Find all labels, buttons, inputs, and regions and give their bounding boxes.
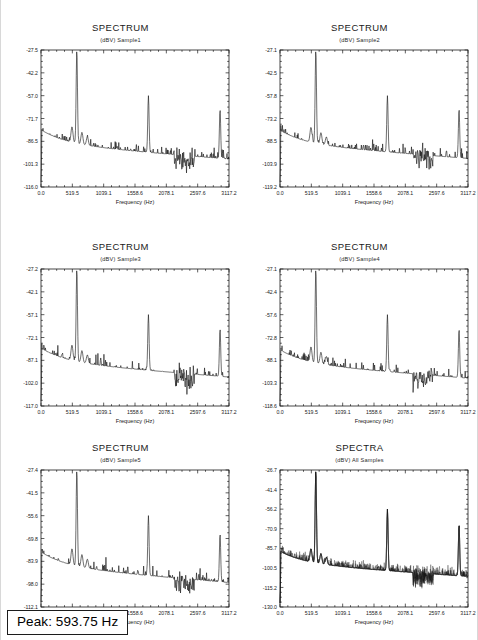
x-tick-label: 0.0 <box>37 409 44 415</box>
y-tick-label: -69.8 <box>26 536 38 542</box>
spectrum-plot: -27.2-42.1-57.1-72.1-87.1-102.0-117.00.0… <box>1 263 240 438</box>
spectrum-trace <box>280 271 468 402</box>
plot-area: -27.2-42.1-57.1-72.1-87.1-102.0-117.00.0… <box>1 263 240 438</box>
spectrum-trace <box>41 472 229 602</box>
y-tick-label: -42.5 <box>265 70 277 76</box>
y-tick-label: -88.1 <box>265 357 277 363</box>
x-tick-label: 2078.1 <box>397 610 413 616</box>
spectra-panel-all-samples: SPECTRA (dBV) All Samples -26.7-41.4-56.… <box>240 426 478 639</box>
x-tick-label: 2078.1 <box>158 610 174 616</box>
plot-area: -27.5-42.2-57.0-71.7-86.5-101.3-116.00.0… <box>1 44 240 219</box>
y-tick-label: -27.4 <box>26 467 38 473</box>
x-tick-label: 519.5 <box>305 409 318 415</box>
x-tick-label: 2078.1 <box>158 409 174 415</box>
y-tick-label: -70.9 <box>265 526 277 532</box>
spectrum-trace <box>41 271 229 402</box>
y-tick-label: -27.1 <box>265 47 277 53</box>
x-tick-label: 0.0 <box>276 610 283 616</box>
x-tick-label: 1039.1 <box>96 409 112 415</box>
plot-area: -27.1-42.4-57.6-72.8-88.1-103.3-118.60.0… <box>240 263 478 438</box>
x-tick-label: 1039.1 <box>335 610 351 616</box>
y-tick-label: -41.5 <box>26 490 38 496</box>
x-tick-label: 2597.6 <box>190 610 206 616</box>
x-tick-label: 519.5 <box>66 409 79 415</box>
spectrum-trace <box>280 52 468 183</box>
y-tick-label: -72.8 <box>265 335 277 341</box>
y-tick-label: -57.8 <box>265 93 277 99</box>
x-tick-label: 1039.1 <box>96 190 112 196</box>
spectrum-trace <box>280 472 468 603</box>
plot-frame <box>280 50 468 187</box>
x-tick-label: 2597.6 <box>429 610 445 616</box>
y-tick-label: -100.5 <box>262 565 277 571</box>
y-tick-label: -83.9 <box>26 558 38 564</box>
y-tick-label: -55.6 <box>26 513 38 519</box>
x-tick-label: 0.0 <box>276 190 283 196</box>
chart-subtitle: (dBV) All Samples <box>240 457 478 463</box>
x-tick-label: 0.0 <box>276 409 283 415</box>
x-axis-label: Frequency (Hz) <box>355 199 394 205</box>
spectrum-trace <box>41 52 229 182</box>
y-tick-label: -87.1 <box>26 357 38 363</box>
spectrum-chart-grid: SPECTRUM (dBV) Sample1 -27.5-42.2-57.0-7… <box>1 0 478 640</box>
y-tick-label: -102.0 <box>23 380 38 386</box>
chart-title: SPECTRUM <box>240 241 478 252</box>
x-tick-label: 3117.2 <box>221 409 237 415</box>
spectrum-panel-sample1: SPECTRUM (dBV) Sample1 -27.5-42.2-57.0-7… <box>1 6 240 219</box>
y-tick-label: -86.5 <box>26 138 38 144</box>
y-tick-label: -103.3 <box>262 380 277 386</box>
plot-frame <box>41 50 229 187</box>
x-tick-label: 2597.6 <box>429 409 445 415</box>
x-axis-label: Frequency (Hz) <box>355 418 394 424</box>
x-tick-label: 519.5 <box>305 190 318 196</box>
chart-title: SPECTRUM <box>240 22 478 33</box>
spectrum-plot: -27.1-42.4-57.6-72.8-88.1-103.3-118.60.0… <box>240 263 478 438</box>
spectrum-plot: -27.1-42.5-57.8-73.2-88.5-103.9-119.20.0… <box>240 44 478 219</box>
y-tick-label: -117.0 <box>24 403 38 409</box>
x-tick-label: 2078.1 <box>397 190 413 196</box>
y-tick-label: -27.1 <box>265 266 277 272</box>
y-tick-label: -72.1 <box>26 335 38 341</box>
plot-frame <box>280 470 468 607</box>
y-tick-label: -57.0 <box>26 93 38 99</box>
y-tick-label: -42.2 <box>26 70 38 76</box>
chart-subtitle: (dBV) Sample5 <box>1 457 240 463</box>
spectrum-panel-sample2: SPECTRUM (dBV) Sample2 -27.1-42.5-57.8-7… <box>240 6 478 219</box>
spectrum-trace <box>280 472 468 603</box>
spectrum-trace <box>280 472 468 603</box>
y-tick-label: -56.2 <box>265 506 277 512</box>
x-tick-label: 0.0 <box>37 190 44 196</box>
spectrum-plot: -26.7-41.4-56.2-70.9-85.7-100.5-115.2-13… <box>240 464 478 639</box>
spectrum-trace <box>280 472 468 603</box>
y-tick-label: -115.2 <box>263 585 277 591</box>
x-tick-label: 1039.1 <box>335 190 351 196</box>
x-tick-label: 1558.6 <box>127 409 143 415</box>
plot-area: -26.7-41.4-56.2-70.9-85.7-100.5-115.2-13… <box>240 464 478 639</box>
x-tick-label: 519.5 <box>66 190 79 196</box>
chart-subtitle: (dBV) Sample1 <box>1 37 240 43</box>
chart-subtitle: (dBV) Sample2 <box>240 37 478 43</box>
x-tick-label: 3117.2 <box>221 190 237 196</box>
y-tick-label: -73.2 <box>265 116 277 122</box>
chart-subtitle: (dBV) Sample4 <box>240 256 478 262</box>
x-axis-label: Frequency (Hz) <box>355 619 394 625</box>
y-tick-label: -103.9 <box>262 161 277 167</box>
y-tick-label: -57.6 <box>265 312 277 318</box>
spectrum-panel-sample3: SPECTRUM (dBV) Sample3 -27.2-42.1-57.1-7… <box>1 225 240 438</box>
x-tick-label: 2078.1 <box>158 190 174 196</box>
y-tick-label: -118.6 <box>263 403 277 409</box>
x-tick-label: 1558.6 <box>127 190 143 196</box>
x-tick-label: 2597.6 <box>190 409 206 415</box>
spectrum-plot: -27.5-42.2-57.0-71.7-86.5-101.3-116.00.0… <box>1 44 240 219</box>
x-tick-label: 3117.2 <box>221 610 237 616</box>
y-tick-label: -101.3 <box>23 161 38 167</box>
plot-frame <box>41 269 229 406</box>
plot-area: -27.1-42.5-57.8-73.2-88.5-103.9-119.20.0… <box>240 44 478 219</box>
y-tick-label: -42.1 <box>26 289 38 295</box>
spectrum-trace <box>280 472 468 603</box>
x-tick-label: 2078.1 <box>397 409 413 415</box>
plot-frame <box>41 470 229 607</box>
chart-title: SPECTRUM <box>1 241 240 252</box>
y-tick-label: -71.7 <box>26 116 38 122</box>
spectrum-panel-sample4: SPECTRUM (dBV) Sample4 -27.1-42.4-57.6-7… <box>240 225 478 438</box>
